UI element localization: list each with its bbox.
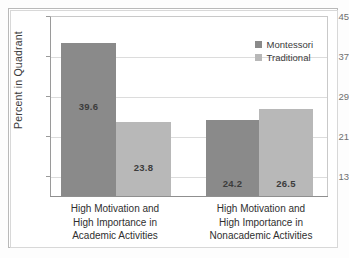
bar-value-label: 39.6 <box>61 101 116 112</box>
bar-value-label: 23.8 <box>116 162 171 173</box>
category-line-2: High Importance in <box>192 216 330 230</box>
legend-swatch-icon <box>255 54 262 61</box>
bar-value-label: 26.5 <box>259 178 313 189</box>
bar-montessori-academic[interactable]: 39.6 <box>61 43 116 196</box>
legend-item-montessori[interactable]: Montessori <box>255 39 313 50</box>
x-axis-baseline <box>50 196 328 197</box>
bar-chart-figure: Percent in Quadrant 45 37 29 21 13 39.6 … <box>0 0 349 258</box>
legend: Montessori Traditional <box>255 39 313 65</box>
category-line-2: High Importance in <box>48 216 182 230</box>
plot-area: 39.6 23.8 24.2 26.5 Montessori Tradition… <box>50 16 328 196</box>
y-axis-title: Percent in Quadrant <box>12 0 24 160</box>
bar-value-label: 24.2 <box>206 178 259 189</box>
legend-label: Montessori <box>267 39 313 50</box>
legend-swatch-icon <box>255 41 262 48</box>
category-line-3: Academic Activities <box>48 229 182 243</box>
legend-item-traditional[interactable]: Traditional <box>255 52 313 63</box>
category-line-1: High Motivation and <box>192 202 330 216</box>
bar-traditional-academic[interactable]: 23.8 <box>116 122 171 196</box>
category-line-3: Nonacademic Activities <box>192 229 330 243</box>
category-line-1: High Motivation and <box>48 202 182 216</box>
bar-montessori-nonacademic[interactable]: 24.2 <box>206 120 259 196</box>
category-label-nonacademic: High Motivation and High Importance in N… <box>192 202 330 243</box>
category-label-academic: High Motivation and High Importance in A… <box>48 202 182 243</box>
legend-label: Traditional <box>267 52 311 63</box>
bar-traditional-nonacademic[interactable]: 26.5 <box>259 109 313 196</box>
